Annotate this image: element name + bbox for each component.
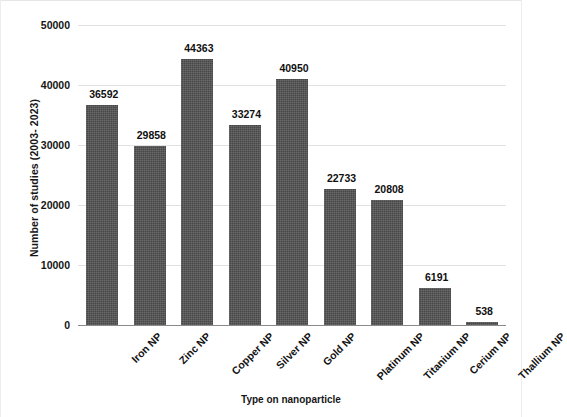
- bar-group: 33274: [223, 25, 271, 325]
- y-tick-label: 50000: [41, 19, 70, 31]
- bar[interactable]: [86, 105, 118, 325]
- y-tick-label: 40000: [41, 79, 70, 91]
- bar[interactable]: [276, 79, 308, 325]
- y-tick-label: 0: [64, 319, 70, 331]
- page-border-left: [0, 0, 1, 417]
- y-tick-label: 30000: [41, 139, 70, 151]
- bar[interactable]: [371, 200, 403, 325]
- x-tick-label: Thallium NP: [516, 330, 567, 381]
- x-axis-title: Type on nanoparticle: [0, 394, 522, 405]
- y-tick-label: 10000: [41, 259, 70, 271]
- x-tick-label: Gold NP: [320, 330, 358, 368]
- bar-value-label: 20808: [374, 183, 403, 195]
- bar-value-label: 6191: [425, 271, 448, 283]
- bar[interactable]: [324, 189, 356, 325]
- bar-group: 538: [460, 25, 508, 325]
- bars-layer: 3659229858443633327440950227332080861915…: [78, 25, 506, 325]
- bar-group: 36592: [80, 25, 128, 325]
- bar-group: 44363: [175, 25, 223, 325]
- bar-value-label: 36592: [89, 88, 118, 100]
- bar-group: 40950: [270, 25, 318, 325]
- page-border-right: [521, 0, 522, 417]
- bar-group: 6191: [413, 25, 461, 325]
- y-tick-label: 20000: [41, 199, 70, 211]
- bar[interactable]: [181, 59, 213, 325]
- y-axis-title: Number of studies (2003- 2023): [28, 48, 40, 308]
- x-tick-label: Copper NP: [229, 330, 276, 377]
- x-axis-tick-labels: Iron NPZinc NPCopper NPSilver NPGold NPP…: [78, 326, 506, 392]
- bar[interactable]: [419, 288, 451, 325]
- bar-value-label: 538: [475, 305, 493, 317]
- bar-value-label: 33274: [232, 108, 261, 120]
- bar-group: 29858: [128, 25, 176, 325]
- bar-group: 22733: [318, 25, 366, 325]
- bar-value-label: 40950: [279, 62, 308, 74]
- x-tick-label: Iron NP: [129, 330, 164, 365]
- page-border-top: [0, 0, 522, 1]
- x-tick-label: Zinc NP: [177, 330, 213, 366]
- x-tick-label: Silver NP: [274, 330, 315, 371]
- bar-value-label: 22733: [327, 172, 356, 184]
- x-tick-label: Cerium NP: [466, 330, 512, 376]
- bar-value-label: 44363: [184, 42, 213, 54]
- bar-group: 20808: [365, 25, 413, 325]
- x-tick-label: Platinum NP: [374, 330, 426, 382]
- bar[interactable]: [466, 322, 498, 325]
- x-tick-label: Titanium NP: [421, 330, 473, 382]
- plot-area: 01000020000300004000050000 3659229858443…: [78, 25, 506, 325]
- bar[interactable]: [229, 125, 261, 325]
- bar[interactable]: [134, 146, 166, 325]
- bar-value-label: 29858: [137, 129, 166, 141]
